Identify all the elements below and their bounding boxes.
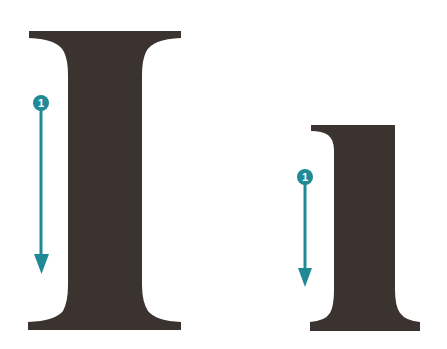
large-arrow-head-icon xyxy=(34,254,49,274)
large-badge-label: 1 xyxy=(38,97,44,109)
typography-diagram: 1 1 xyxy=(0,0,447,349)
small-arrow-annotation: 1 xyxy=(297,169,313,287)
small-badge-label: 1 xyxy=(302,171,308,183)
large-glyph-shape xyxy=(28,31,181,330)
small-arrow-head-icon xyxy=(298,268,312,287)
small-glyph-shape xyxy=(310,125,420,331)
small-glyph-l xyxy=(310,125,420,331)
large-arrow-annotation: 1 xyxy=(33,95,49,274)
large-glyph-i xyxy=(28,31,181,330)
